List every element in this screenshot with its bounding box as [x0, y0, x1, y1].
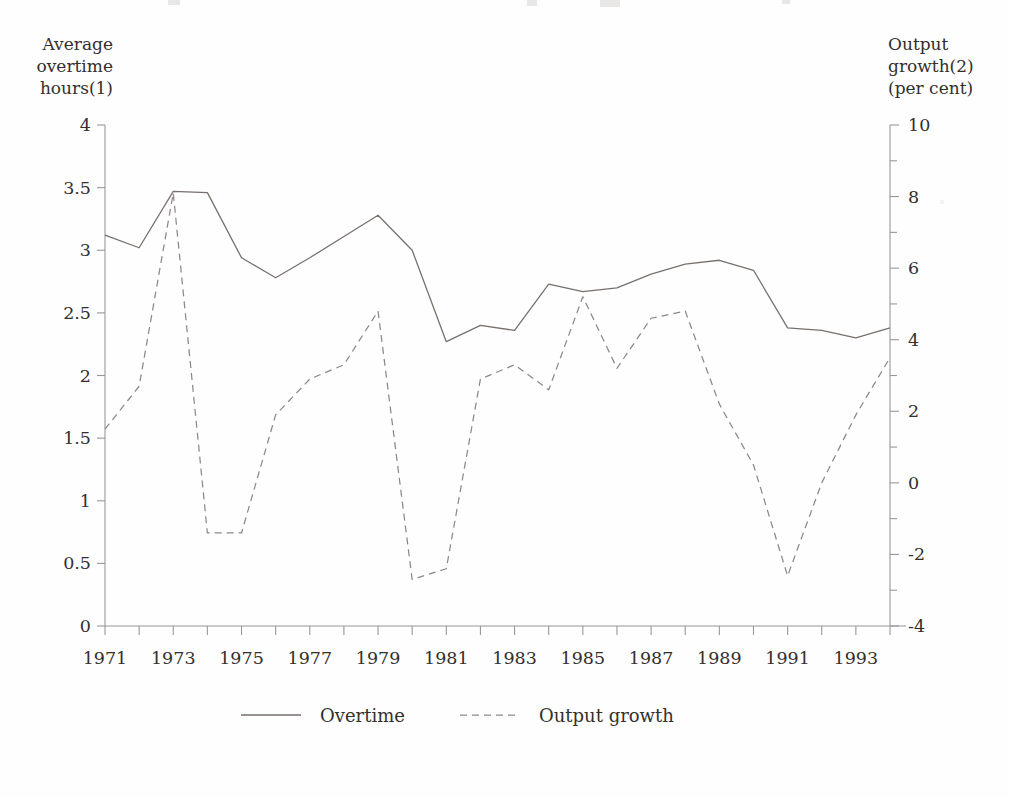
- right-tick-label: -2: [908, 544, 925, 564]
- left-axis-title-line-3: hours(1): [40, 78, 113, 98]
- left-tick-label: 2.5: [63, 303, 91, 323]
- left-tick-label: 3: [80, 240, 91, 260]
- x-tick-label: 1977: [288, 648, 333, 668]
- series-line-output-growth: [105, 193, 890, 579]
- chart-legend: Overtime Output growth: [241, 705, 674, 726]
- x-tick-label: 1987: [629, 648, 674, 668]
- right-tick-label: 4: [908, 330, 919, 350]
- left-tick-label: 4: [80, 115, 91, 135]
- right-tick-label: 8: [908, 187, 919, 207]
- x-tick-label: 1975: [219, 648, 264, 668]
- right-tick-label: 10: [908, 115, 930, 135]
- left-tick-label: 1.5: [63, 428, 91, 448]
- right-tick-label: 6: [908, 258, 919, 278]
- x-tick-label: 1993: [834, 648, 879, 668]
- data-series: [105, 191, 890, 579]
- x-tick-label: 1981: [424, 648, 469, 668]
- left-tick-label: 1: [80, 491, 91, 511]
- x-tick-label: 1983: [492, 648, 537, 668]
- scan-artifacts: [168, 0, 944, 204]
- left-tick-label: 3.5: [63, 178, 91, 198]
- legend-label-output-growth: Output growth: [539, 705, 674, 726]
- right-axis-title-line-1: Output: [888, 34, 949, 54]
- left-axis-title-line-2: overtime: [37, 56, 113, 76]
- axes: [97, 125, 906, 635]
- left-tick-label: 0.5: [63, 553, 91, 573]
- x-tick-label: 1979: [356, 648, 401, 668]
- chart-figure: Average overtime hours(1) Output growth(…: [0, 0, 1010, 797]
- x-tick-label: 1985: [561, 648, 606, 668]
- right-tick-label: -4: [908, 616, 925, 636]
- x-tick-label: 1971: [83, 648, 128, 668]
- left-tick-label: 0: [80, 616, 91, 636]
- right-tick-label: 0: [908, 473, 919, 493]
- x-tick-label: 1973: [151, 648, 196, 668]
- left-tick-label: 2: [80, 366, 91, 386]
- x-tick-label: 1991: [765, 648, 810, 668]
- series-line-overtime: [105, 191, 890, 341]
- left-axis-title-line-1: Average: [42, 34, 113, 54]
- chart-canvas: Average overtime hours(1) Output growth(…: [0, 0, 1010, 797]
- right-axis-title-line-3: (per cent): [888, 78, 973, 98]
- right-axis-title: Output growth(2) (per cent): [888, 34, 974, 98]
- right-tick-label: 2: [908, 401, 919, 421]
- legend-label-overtime: Overtime: [320, 705, 405, 726]
- right-axis-title-line-2: growth(2): [888, 56, 974, 76]
- x-tick-label: 1989: [697, 648, 742, 668]
- left-axis-title: Average overtime hours(1): [37, 34, 113, 98]
